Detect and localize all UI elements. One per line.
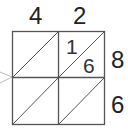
side-digit-1: 8 <box>111 48 124 72</box>
cell-r0c1-ones: 6 <box>83 55 95 76</box>
top-digit-2: 2 <box>73 4 86 28</box>
cell-r0c1-tens: 1 <box>66 36 78 57</box>
lattice-diagram: 4 2 8 6 1 6 <box>0 0 128 130</box>
side-digit-2: 6 <box>111 93 124 117</box>
lattice-grid <box>0 0 128 130</box>
arrow-icon <box>0 72 12 83</box>
top-digit-1: 4 <box>29 4 42 28</box>
